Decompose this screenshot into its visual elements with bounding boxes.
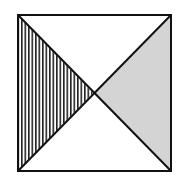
diagonal-square-figure (0, 0, 183, 180)
